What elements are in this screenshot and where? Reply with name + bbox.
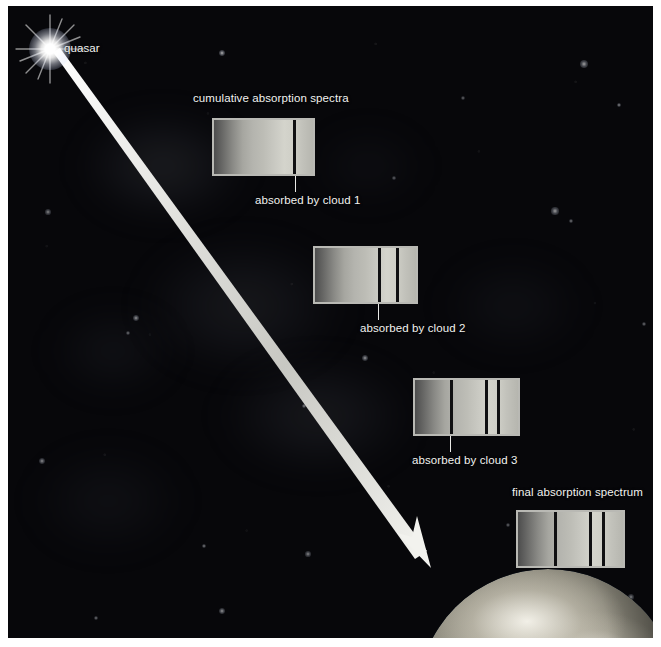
spectrum-cloud-1-label: absorbed by cloud 1: [255, 194, 360, 207]
quasar-label: quasar: [64, 42, 100, 55]
spectrum-cloud-3-label: absorbed by cloud 3: [412, 454, 517, 467]
spectrum-gradient: [214, 120, 313, 174]
spectrum-gradient: [315, 248, 416, 302]
absorption-line-1: [554, 512, 557, 566]
absorption-line-2: [589, 512, 592, 566]
absorption-line-1: [293, 120, 296, 174]
leader-line: [378, 304, 379, 320]
quasar-absorption-diagram: absorbed by cloud 1absorbed by cloud 2ab…: [0, 0, 661, 647]
leader-line: [295, 176, 296, 192]
absorption-line-2: [396, 248, 399, 302]
absorption-line-1: [450, 380, 453, 434]
absorption-line-2: [485, 380, 488, 434]
final-spectrum-label: final absorption spectrum: [512, 486, 643, 499]
spectrum-cloud-1[interactable]: [212, 118, 315, 176]
spectrum-final[interactable]: [516, 510, 625, 568]
spectrum-gradient: [518, 512, 623, 566]
absorption-line-3: [602, 512, 605, 566]
spectrum-gradient: [415, 380, 518, 434]
starfield-background: absorbed by cloud 1absorbed by cloud 2ab…: [8, 6, 653, 638]
spectrum-cloud-2-label: absorbed by cloud 2: [360, 322, 465, 335]
spectrum-cloud-2[interactable]: [313, 246, 418, 304]
absorption-line-3: [497, 380, 500, 434]
spectrum-cloud-3[interactable]: [413, 378, 520, 436]
absorption-line-1: [378, 248, 381, 302]
leader-line: [450, 436, 451, 452]
cumulative-spectra-title: cumulative absorption spectra: [193, 92, 349, 105]
